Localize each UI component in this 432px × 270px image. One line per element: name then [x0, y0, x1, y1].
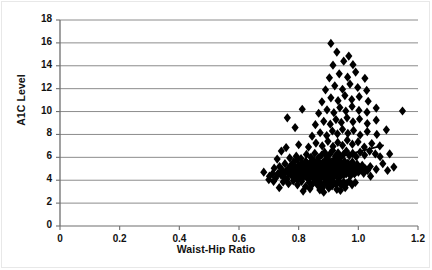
data-point-diamond [322, 85, 329, 94]
x-tick-label: 0 [40, 233, 80, 244]
data-point-diamond [363, 86, 370, 95]
data-point-diamond [363, 108, 370, 117]
y-tick-label: 10 [22, 105, 52, 116]
x-tick-label: 1.0 [338, 233, 378, 244]
data-point-diamond [291, 123, 298, 132]
data-point-diamond [384, 166, 391, 175]
data-point-diamond [315, 109, 322, 118]
data-point-diamond [295, 140, 302, 149]
y-tick-label: 12 [22, 82, 52, 93]
data-point-diamond [327, 93, 334, 102]
data-point-diamond [305, 142, 312, 151]
data-point-diamond [340, 57, 347, 66]
x-axis-label: Waist-Hip Ratio [0, 243, 432, 255]
y-tick-label: 8 [22, 127, 52, 138]
data-point-diamond [342, 106, 349, 115]
data-point-diamond [260, 168, 267, 177]
data-point-diamond [348, 95, 355, 104]
x-tick-label: 0.8 [279, 233, 319, 244]
data-point-diamond [312, 120, 319, 129]
data-point-diamond [354, 83, 361, 92]
data-point-diamond [355, 106, 362, 115]
data-point-diamond [284, 113, 291, 122]
data-point-diamond [356, 114, 363, 123]
data-point-diamond [336, 69, 343, 78]
data-point-diamond [320, 117, 327, 126]
data-point-diamond [299, 105, 306, 114]
y-tick-label: 0 [22, 219, 52, 230]
y-tick-label: 18 [22, 13, 52, 24]
data-point-diamond [373, 116, 380, 125]
data-point-diamond [349, 117, 356, 126]
y-tick-label: 2 [22, 196, 52, 207]
x-tick-label: 1.2 [398, 233, 432, 244]
data-point-diamond [333, 47, 340, 56]
chart-figure: A1C Level Waist-Hip Ratio 02468101214161… [0, 0, 432, 270]
data-point-diamond [327, 39, 334, 48]
data-point-diamond [399, 106, 406, 115]
data-point-diamond [364, 119, 371, 128]
data-point-diamond [309, 132, 316, 141]
scatter-plot-canvas [0, 0, 432, 270]
data-point-diamond [373, 130, 380, 139]
y-tick-label: 16 [22, 36, 52, 47]
data-point-diamond [365, 97, 372, 106]
data-point-diamond [323, 105, 330, 114]
data-point-diamond [318, 97, 325, 106]
data-point-diamond [343, 113, 350, 122]
y-tick-label: 4 [22, 173, 52, 184]
data-point-diamond [317, 128, 324, 137]
x-tick-label: 0.4 [159, 233, 199, 244]
y-tick-label: 14 [22, 59, 52, 70]
y-tick-label: 6 [22, 150, 52, 161]
data-point-diamond [361, 74, 368, 83]
data-point-diamond [356, 92, 363, 101]
data-point-diamond [329, 61, 336, 70]
data-point-group [260, 39, 406, 197]
x-tick-label: 0.2 [100, 233, 140, 244]
data-point-diamond [373, 165, 380, 174]
data-point-diamond [390, 162, 397, 171]
data-point-diamond [383, 125, 390, 134]
x-tick-label: 0.6 [219, 233, 259, 244]
data-point-diamond [312, 138, 319, 147]
data-point-diamond [326, 73, 333, 82]
data-point-diamond [345, 51, 352, 60]
